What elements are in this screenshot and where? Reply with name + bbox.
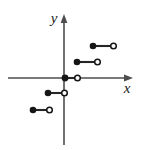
step-segment-2 (45, 90, 68, 97)
open-endpoint-dot (111, 43, 117, 49)
step-segment-3 (62, 75, 81, 82)
open-endpoint-dot (47, 107, 53, 113)
open-endpoint-dot (75, 75, 81, 81)
y-axis-label: y (49, 10, 58, 26)
closed-endpoint-dot (45, 90, 52, 97)
closed-endpoint-dot (30, 107, 37, 114)
closed-endpoint-dot (62, 75, 69, 82)
open-endpoint-dot (62, 90, 68, 96)
open-endpoint-dot (95, 59, 101, 65)
closed-endpoint-dot (74, 59, 81, 66)
step-segment-5 (90, 43, 117, 50)
closed-endpoint-dot (90, 43, 97, 50)
x-axis-label: x (123, 80, 131, 96)
step-segment-4 (74, 59, 101, 66)
step-function-figure: y x (0, 0, 141, 150)
step-segment-1 (30, 107, 53, 114)
y-axis-arrowhead (61, 14, 68, 23)
graph-canvas: y x (0, 0, 141, 150)
